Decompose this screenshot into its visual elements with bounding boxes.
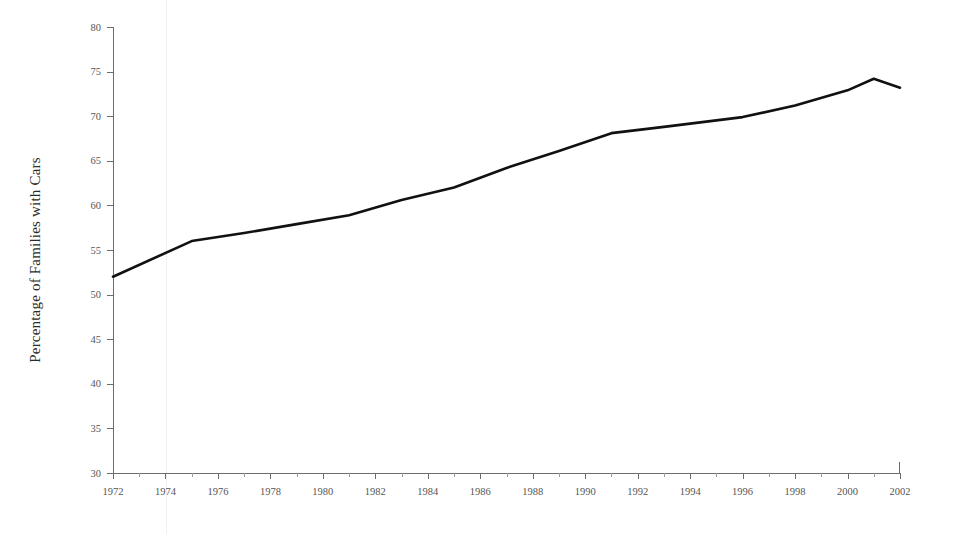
- x-tick-label: 1972: [103, 486, 124, 497]
- y-tick-label: 70: [91, 111, 102, 122]
- x-tick-label: 1994: [680, 486, 702, 497]
- y-tick-label: 75: [91, 66, 102, 77]
- y-axis-title: Percentage of Families with Cars: [27, 157, 43, 363]
- line-chart: Percentage of Families with Cars 3035404…: [0, 0, 953, 534]
- y-tick-label: 40: [91, 378, 102, 389]
- x-tick-label: 1984: [417, 486, 439, 497]
- y-tick-label: 35: [91, 423, 102, 434]
- y-tick-label: 60: [91, 200, 102, 211]
- y-tick-label: 45: [91, 334, 102, 345]
- y-tick-label: 30: [91, 468, 102, 479]
- y-tick-label: 50: [91, 289, 102, 300]
- x-tick-label: 1988: [522, 486, 543, 497]
- x-tick-label: 1992: [627, 486, 648, 497]
- x-tick-label: 1976: [207, 486, 228, 497]
- y-tick-label: 80: [91, 22, 102, 33]
- y-tick-label: 55: [91, 245, 102, 256]
- x-tick-label: 1980: [312, 486, 333, 497]
- y-tick-group: 3035404550556065707580: [91, 22, 114, 479]
- x-tick-label: 1974: [155, 486, 177, 497]
- x-tick-label: 2002: [890, 486, 911, 497]
- x-tick-label: 1982: [365, 486, 386, 497]
- chart-plot-area: Percentage of Families with Cars 3035404…: [0, 0, 953, 534]
- x-tick-label: 2000: [837, 486, 858, 497]
- y-tick-label: 65: [91, 155, 102, 166]
- x-tick-label: 1978: [260, 486, 281, 497]
- x-tick-label: 1986: [470, 486, 491, 497]
- x-tick-label: 1998: [785, 486, 806, 497]
- x-tick-label: 1996: [732, 486, 753, 497]
- x-tick-label: 1990: [575, 486, 596, 497]
- data-series-line: [113, 79, 900, 277]
- x-tick-group: 1972197419761978198019821984198619881990…: [103, 473, 911, 497]
